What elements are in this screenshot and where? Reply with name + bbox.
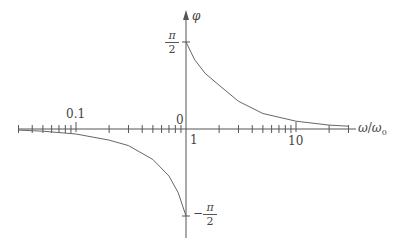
y-axis-label: φ xyxy=(192,10,200,22)
x-tick-label-1: 1 xyxy=(190,134,198,146)
phase-response-chart: φ π 2 0 0.1 1 10 ω/ω0 − π 2 xyxy=(0,0,398,245)
phase-curve-1 xyxy=(19,130,187,216)
y-tick-label-pi-over-2: π 2 xyxy=(165,30,179,55)
x-tick-label-0.1: 0.1 xyxy=(66,108,85,120)
y-tick-label-minus-pi-over-2: π 2 xyxy=(203,202,217,227)
phase-curve-2 xyxy=(186,42,349,126)
y-tick-minus-sign: − xyxy=(193,207,203,219)
y-axis-arrow-icon xyxy=(183,10,189,20)
x-tick-label-10: 10 xyxy=(288,135,303,147)
origin-label: 0 xyxy=(176,114,184,126)
x-axis-label: ω/ω0 xyxy=(358,122,387,137)
